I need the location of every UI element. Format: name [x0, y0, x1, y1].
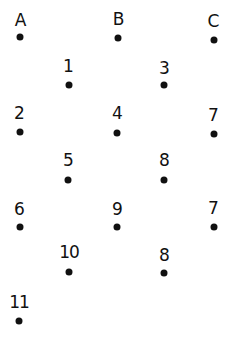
dot-icon: [17, 224, 24, 231]
point-label: 1: [63, 58, 73, 75]
point-label: 3: [159, 60, 169, 77]
point-label: 9: [112, 201, 122, 218]
dot-icon: [161, 270, 168, 277]
point-label: 10: [59, 244, 79, 261]
dot-icon: [114, 130, 121, 137]
dot-icon: [161, 177, 168, 184]
dot-icon: [65, 177, 72, 184]
dot-icon: [66, 82, 73, 89]
dot-icon: [211, 37, 218, 44]
point-label: 6: [14, 201, 24, 218]
dot-icon: [115, 35, 122, 42]
point-label: 7: [208, 200, 218, 217]
point-label: 2: [14, 105, 24, 122]
dot-icon: [211, 224, 218, 231]
dot-icon: [17, 129, 24, 136]
dot-icon: [114, 224, 121, 231]
point-label: 11: [9, 294, 29, 311]
dot-icon: [16, 318, 23, 325]
point-label: 4: [112, 105, 122, 122]
point-label: C: [208, 13, 219, 30]
point-label: 8: [159, 152, 169, 169]
point-label: 7: [208, 107, 218, 124]
point-label: A: [15, 12, 26, 29]
point-label: 5: [63, 152, 73, 169]
dot-icon: [66, 269, 73, 276]
point-label: B: [113, 11, 124, 28]
dot-icon: [17, 34, 24, 41]
dot-icon: [211, 131, 218, 138]
point-label: 8: [159, 247, 169, 264]
dot-icon: [161, 82, 168, 89]
